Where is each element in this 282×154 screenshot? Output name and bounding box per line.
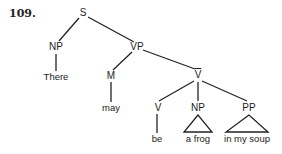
node-v: V — [155, 103, 162, 113]
leaf-a-frog: a frog — [186, 134, 210, 144]
leaf-in-my-soup: in my soup — [224, 134, 270, 144]
tree-branches — [0, 0, 282, 154]
leaf-there: There — [44, 72, 69, 82]
syntax-tree-diagram: 109. S NP VP M V V NP PP There may be a … — [0, 0, 282, 154]
triangle-np — [184, 115, 212, 132]
node-m: M — [107, 71, 115, 81]
leaf-be: be — [152, 134, 163, 144]
leaf-may: may — [102, 103, 120, 113]
branch-vbar-v — [159, 81, 194, 101]
node-np-subject: NP — [49, 42, 63, 52]
branch-s-np — [59, 18, 79, 41]
triangle-pp — [226, 115, 268, 132]
branch-vbar-pp — [202, 81, 247, 101]
node-vbar: V — [195, 70, 202, 80]
branch-s-vp — [88, 17, 134, 42]
node-pp: PP — [242, 103, 255, 113]
node-s: S — [80, 8, 87, 18]
node-vp: VP — [130, 42, 143, 52]
branch-vp-vbar — [143, 50, 195, 69]
example-number: 109. — [9, 7, 36, 20]
branch-vp-m — [113, 52, 132, 70]
node-np-object: NP — [191, 103, 205, 113]
